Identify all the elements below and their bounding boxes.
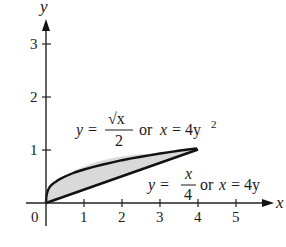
x-tick-label: 4 — [194, 209, 202, 225]
lower-line-equation: y = x 4 or x = 4y — [146, 165, 260, 203]
eq2-numerator: x — [184, 165, 192, 182]
eq1-numerator: √x — [108, 110, 125, 127]
region-diagram: 0 1 2 3 4 5 1 2 3 x y y = √x 2 or x = 4y… — [0, 0, 286, 247]
y-tick-label: 3 — [30, 36, 38, 52]
eq2-denominator: 4 — [184, 186, 192, 203]
origin-label: 0 — [31, 209, 39, 225]
eq1-lhs: y = — [74, 121, 98, 139]
eq1-denominator: 2 — [115, 132, 123, 149]
y-axis-label: y — [38, 0, 48, 16]
eq2-connector: or — [200, 176, 214, 193]
y-tick-label: 1 — [30, 142, 38, 158]
x-tick-label: 5 — [232, 209, 240, 225]
x-tick-label: 2 — [118, 209, 126, 225]
x-tick-label: 1 — [80, 209, 88, 225]
x-axis-arrow-icon — [262, 199, 274, 207]
x-axis-label: x — [275, 193, 284, 212]
y-axis-arrow-icon — [42, 19, 50, 31]
eq1-alt-rhs: = 4y — [172, 121, 201, 139]
upper-curve-equation: y = √x 2 or x = 4y 2 — [74, 110, 217, 149]
eq1-exponent: 2 — [211, 118, 217, 130]
x-tick-label: 3 — [156, 209, 164, 225]
eq2-alt-lhs: x — [218, 176, 226, 193]
eq2-alt-rhs: = 4y — [231, 176, 260, 194]
y-tick-label: 2 — [30, 89, 38, 105]
eq1-alt-lhs: x — [159, 121, 167, 138]
eq1-connector: or — [139, 121, 153, 138]
eq2-lhs: y = — [146, 176, 170, 194]
